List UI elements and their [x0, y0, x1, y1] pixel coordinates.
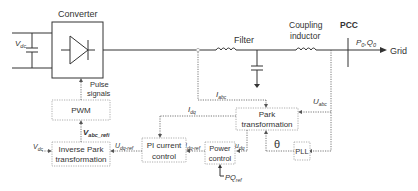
pi-label-1: PI current: [147, 141, 182, 150]
converter-label: Converter: [58, 9, 98, 19]
vdc-label: Vdc: [15, 39, 26, 49]
coupling-label-1: Coupling: [289, 20, 323, 30]
current-sensor: [196, 48, 199, 51]
inverse-park-label-1: Inverse Park: [59, 145, 105, 154]
iabc-label: Iabc: [216, 90, 227, 100]
park-label-1: Park: [259, 110, 276, 119]
udqref-label: Udq-ref: [115, 142, 134, 151]
converter: Converter: [52, 9, 103, 78]
pwm-label: PWM: [71, 106, 91, 115]
dc-link: Vdc: [12, 33, 52, 68]
pulse-label-2: signals: [87, 89, 111, 98]
coupling-inductor-icon: [296, 48, 316, 50]
pi-label-2: control: [152, 152, 176, 161]
vdc-input-label: Vdc: [33, 143, 43, 152]
pll-label: PLL: [295, 147, 308, 156]
power-control-label-2: control: [209, 154, 232, 163]
theta-label: θ: [274, 138, 280, 150]
pcc-label: PCC: [340, 20, 358, 30]
vabcref-label: Vabc_refi: [83, 128, 110, 138]
diode-icon: [70, 36, 88, 64]
park-label-2: transformation: [241, 120, 292, 129]
pulse-label-1: Pulse: [90, 80, 109, 89]
control-diagram: Vdc Converter Filter Coupling inductor P…: [0, 0, 418, 191]
inverse-park-label-2: transformation: [55, 155, 106, 164]
power-flow-label: P0,Q0: [356, 38, 377, 48]
grid-label: Grid: [390, 46, 407, 56]
coupling-label-2: inductor: [290, 31, 320, 41]
idqref-label: Idq-ref: [185, 142, 201, 151]
filter-label: Filter: [234, 35, 254, 45]
power-control-label-1: Power: [209, 144, 231, 153]
filter-inductor-icon: [216, 48, 236, 50]
filter-capacitor-icon: [251, 50, 263, 88]
uabc-label: Uabc: [313, 97, 327, 107]
udq-label: udq: [235, 142, 245, 151]
pqref-label: PQref: [225, 173, 242, 183]
idq-label: Idq: [188, 105, 196, 115]
